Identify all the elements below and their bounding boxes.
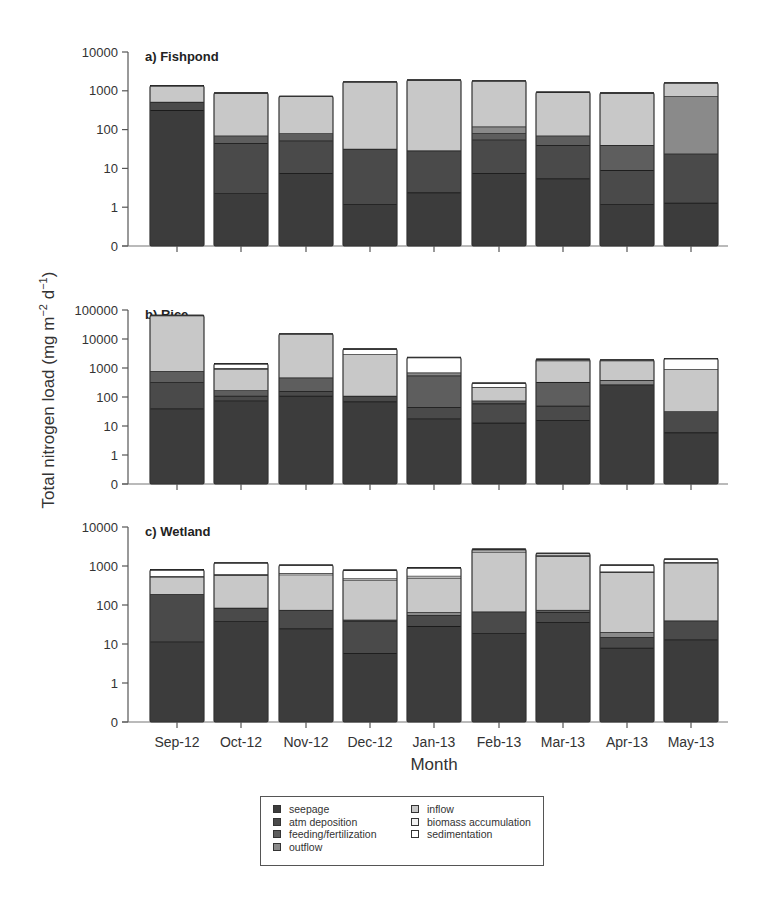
segment-seepage (343, 401, 397, 484)
segment-seepage (407, 626, 461, 722)
y-tick-label: 10000 (82, 45, 118, 60)
segment-inflow (343, 580, 397, 620)
bar-Feb-13 (472, 383, 526, 484)
segment-inflow (472, 552, 526, 612)
segment-sedimentation (664, 359, 718, 370)
segment-inflow (536, 361, 590, 382)
segment-seepage (214, 401, 268, 484)
segment-feeding-fertilization (472, 133, 526, 139)
bar-Mar-13 (536, 553, 590, 722)
segment-atm-deposition (536, 406, 590, 420)
legend-label: biomass accumulation (427, 816, 531, 828)
segment-feeding-fertilization (150, 371, 204, 382)
legend-swatch (273, 818, 281, 826)
panel-title: a) Fishpond (145, 49, 219, 64)
y-tick-label: 0 (111, 239, 118, 254)
bar-Oct-12 (214, 93, 268, 246)
segment-inflow (600, 361, 654, 381)
segment-atm-deposition (343, 621, 397, 653)
segment-sedimentation (343, 570, 397, 578)
segment-seepage (407, 419, 461, 484)
segment-atm-deposition (407, 150, 461, 192)
segment-feeding-fertilization (279, 378, 333, 392)
bar-May-13 (664, 83, 718, 246)
segment-sedimentation (407, 568, 461, 576)
segment-inflow (472, 387, 526, 401)
x-tick-label: Sep-12 (154, 734, 199, 750)
segment-inflow (472, 81, 526, 127)
segment-feeding-fertilization (536, 136, 590, 145)
segment-seepage (600, 204, 654, 246)
segment-seepage (664, 640, 718, 722)
y-axis-title: Total nitrogen load (mg m−2 d−1) (37, 272, 58, 509)
segment-atm-deposition (407, 615, 461, 626)
segment-atm-deposition (472, 140, 526, 174)
segment-feeding-fertilization (279, 133, 333, 140)
segment-atm-deposition (664, 154, 718, 203)
bar-Mar-13 (536, 92, 590, 246)
x-tick-label: Jan-13 (413, 734, 456, 750)
bar-Dec-12 (343, 349, 397, 484)
legend-item-sedimentation: sedimentation (411, 828, 531, 841)
segment-inflow (150, 86, 204, 102)
segment-atm-deposition (279, 391, 333, 396)
y-tick-label: 1 (111, 200, 118, 215)
y-tick-label: 100 (96, 390, 118, 405)
y-tick-label: 10 (104, 161, 118, 176)
segment-sedimentation (407, 358, 461, 373)
x-tick-label: May-13 (668, 734, 715, 750)
segment-inflow (664, 369, 718, 411)
segment-outflow (664, 96, 718, 153)
segment-seepage (536, 622, 590, 722)
bar-Dec-12 (343, 570, 397, 722)
legend-swatch (273, 830, 281, 838)
segment-feeding-fertilization (600, 145, 654, 170)
y-tick-label: 1000 (89, 83, 118, 98)
segment-outflow (472, 127, 526, 134)
y-tick-label: 100 (96, 122, 118, 137)
x-tick-label: Mar-13 (541, 734, 586, 750)
bar-Apr-13 (600, 360, 654, 484)
segment-atm-deposition (600, 170, 654, 204)
segment-atm-deposition (343, 149, 397, 204)
y-tick-label: 10 (104, 419, 118, 434)
legend-item-inflow: inflow (411, 803, 531, 816)
chart-canvas: 0110100100010000a) Fishpond0110100100010… (0, 0, 783, 919)
segment-seepage (279, 173, 333, 246)
legend-item-outflow: outflow (273, 841, 377, 854)
segment-inflow (279, 334, 333, 378)
segment-atm-deposition (536, 612, 590, 622)
segment-seepage (536, 178, 590, 246)
chart-panels: 0110100100010000a) Fishpond0110100100010… (75, 45, 728, 751)
segment-inflow (150, 577, 204, 594)
x-axis-title: Month (410, 755, 457, 774)
legend-label: feeding/fertilization (289, 828, 377, 840)
segment-inflow (407, 578, 461, 613)
legend-label: outflow (289, 841, 322, 853)
segment-seepage (214, 621, 268, 722)
segment-inflow (214, 575, 268, 608)
legend-item-seepage: seepage (273, 803, 377, 816)
segment-atm-deposition (279, 141, 333, 174)
segment-sedimentation (279, 565, 333, 573)
segment-inflow (407, 80, 461, 150)
chart-legend: seepageatm depositionfeeding/fertilizati… (260, 796, 544, 866)
bar-Oct-12 (214, 364, 268, 484)
y-tick-label: 1000 (89, 559, 118, 574)
segment-feeding-fertilization (536, 382, 590, 406)
segment-feeding-fertilization (407, 376, 461, 408)
bar-Nov-12 (279, 334, 333, 484)
panel-title: c) Wetland (145, 524, 211, 539)
segment-inflow (214, 93, 268, 136)
segment-atm-deposition (664, 621, 718, 640)
legend-column-left: seepageatm depositionfeeding/fertilizati… (273, 803, 377, 853)
y-tick-label: 100000 (75, 303, 118, 318)
panel-0: 0110100100010000a) Fishpond (82, 45, 728, 254)
x-tick-label: Nov-12 (283, 734, 328, 750)
panel-1: 0110100100010000100000b) Rice (75, 303, 728, 492)
bar-Nov-12 (279, 565, 333, 722)
bar-Nov-12 (279, 96, 333, 246)
bar-Feb-13 (472, 81, 526, 246)
bar-May-13 (664, 559, 718, 722)
legend-swatch (411, 830, 419, 838)
